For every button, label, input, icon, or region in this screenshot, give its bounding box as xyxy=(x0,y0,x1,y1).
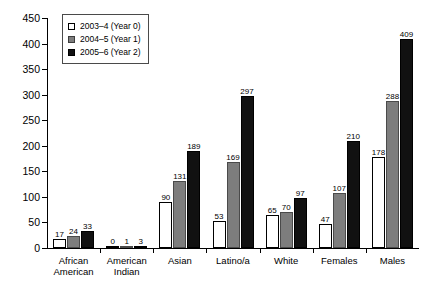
y-axis-tick xyxy=(42,18,47,19)
bar: 53 xyxy=(213,221,226,248)
y-axis-tick-label: 200 xyxy=(0,141,40,151)
bar-value-label: 65 xyxy=(268,207,277,215)
x-axis-category-line: White xyxy=(260,255,313,266)
y-axis-tick-label: 250 xyxy=(0,115,40,125)
bar-value-label: 210 xyxy=(347,133,360,141)
bar-value-label: 189 xyxy=(187,143,200,151)
bar: 107 xyxy=(333,193,346,248)
y-axis-tick xyxy=(42,146,47,147)
x-axis-category-line: American xyxy=(47,266,100,277)
bar-value-label: 17 xyxy=(55,231,64,239)
x-axis-tick xyxy=(153,249,154,253)
x-axis-category-label: Males xyxy=(366,255,419,266)
bar: 24 xyxy=(67,236,80,248)
y-axis-tick-label: 100 xyxy=(0,192,40,202)
bar-value-label: 70 xyxy=(282,204,291,212)
bar: 297 xyxy=(241,96,254,248)
bar: 189 xyxy=(187,151,200,248)
x-axis-category-label: Asian xyxy=(153,255,206,266)
bar: 1 xyxy=(120,246,133,248)
bar-value-label: 97 xyxy=(296,190,305,198)
bar: 33 xyxy=(81,231,94,248)
x-axis-line xyxy=(47,248,419,249)
bar: 0 xyxy=(106,246,119,248)
y-axis-tick xyxy=(42,171,47,172)
bar: 97 xyxy=(294,198,307,248)
y-axis-tick xyxy=(42,44,47,45)
y-axis-tick-label: 300 xyxy=(0,90,40,100)
y-axis-tick-label: 150 xyxy=(0,166,40,176)
bar: 178 xyxy=(372,157,385,248)
x-axis-tick xyxy=(313,249,314,253)
bar-group: 90131189 xyxy=(159,18,200,248)
bar-value-label: 409 xyxy=(400,31,413,39)
y-axis-tick xyxy=(42,197,47,198)
bar-chart: 050100150200250300350400450 2003–4 (Year… xyxy=(0,0,433,294)
x-axis-category-label: AfricanAmerican xyxy=(47,255,100,277)
bar: 47 xyxy=(319,224,332,248)
y-axis-tick xyxy=(42,120,47,121)
bar: 70 xyxy=(280,212,293,248)
x-axis-tick xyxy=(206,249,207,253)
y-axis-tick-label: 50 xyxy=(0,217,40,227)
x-axis-category-line: Latino/a xyxy=(206,255,259,266)
bar: 3 xyxy=(134,246,147,248)
bar-group: 53169297 xyxy=(213,18,254,248)
bar-value-label: 47 xyxy=(321,216,330,224)
x-axis-category-line: Females xyxy=(313,255,366,266)
bar: 131 xyxy=(173,181,186,248)
x-axis-tick xyxy=(260,249,261,253)
y-axis-tick-label: 400 xyxy=(0,39,40,49)
bar-value-label: 131 xyxy=(173,173,186,181)
y-axis-tick-label: 0 xyxy=(0,243,40,253)
x-axis-category-line: Asian xyxy=(153,255,206,266)
bar-value-label: 33 xyxy=(83,223,92,231)
bar-value-label: 178 xyxy=(372,149,385,157)
x-axis-category-label: Latino/a xyxy=(206,255,259,266)
bar: 409 xyxy=(400,39,413,248)
bar-value-label: 3 xyxy=(138,238,142,246)
bar: 65 xyxy=(266,215,279,248)
bar-value-label: 53 xyxy=(215,213,224,221)
bar-value-label: 107 xyxy=(333,185,346,193)
bar-value-label: 0 xyxy=(110,238,114,246)
y-axis-tick xyxy=(42,69,47,70)
y-axis-tick xyxy=(42,95,47,96)
bar-value-label: 169 xyxy=(226,154,239,162)
x-axis-category-line: American xyxy=(100,255,153,266)
bar: 90 xyxy=(159,202,172,248)
bar-group: 013 xyxy=(106,18,147,248)
bar-value-label: 1 xyxy=(124,238,128,246)
bar: 288 xyxy=(386,101,399,248)
x-axis-category-label: Females xyxy=(313,255,366,266)
bar-value-label: 24 xyxy=(69,228,78,236)
bar: 210 xyxy=(347,141,360,248)
y-axis-tick xyxy=(42,222,47,223)
x-axis-category-line: Males xyxy=(366,255,419,266)
bar-value-label: 288 xyxy=(386,93,399,101)
bar-group: 657097 xyxy=(266,18,307,248)
y-axis-tick-label: 450 xyxy=(0,13,40,23)
x-axis-category-label: AmericanIndian xyxy=(100,255,153,277)
y-axis-tick xyxy=(42,248,47,249)
x-axis-category-line: Indian xyxy=(100,266,153,277)
bar-group: 172433 xyxy=(53,18,94,248)
bar: 17 xyxy=(53,239,66,248)
x-axis-tick xyxy=(366,249,367,253)
bar-value-label: 90 xyxy=(161,194,170,202)
bar: 169 xyxy=(227,162,240,248)
x-axis-category-label: White xyxy=(260,255,313,266)
x-axis-tick xyxy=(100,249,101,253)
y-axis-tick-label: 350 xyxy=(0,64,40,74)
bar-group: 178288409 xyxy=(372,18,413,248)
x-axis-category-line: African xyxy=(47,255,100,266)
bar-value-label: 297 xyxy=(240,88,253,96)
bar-group: 47107210 xyxy=(319,18,360,248)
